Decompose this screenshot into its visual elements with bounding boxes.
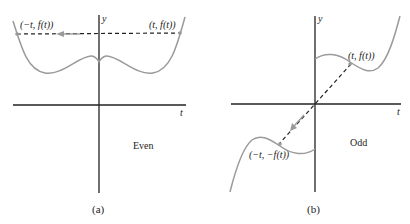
- panel-b-odd: y t (t, f(t)) (−t, −f(t)) Odd (b): [230, 13, 401, 216]
- panel-a-caption: (a): [92, 203, 105, 216]
- panel-b-point-upper: [348, 62, 352, 66]
- panel-a-t-label: t: [180, 107, 183, 118]
- panel-b-t-label: t: [397, 106, 400, 117]
- panel-b-y-label: y: [317, 13, 323, 24]
- panel-b-caption: (b): [307, 203, 320, 216]
- panel-b-point-lower-label: (−t, −f(t)): [249, 149, 290, 161]
- panel-a-y-label: y: [101, 13, 107, 24]
- panel-b-curve-lower: [230, 137, 315, 192]
- panel-b-type-label: Odd: [350, 137, 367, 148]
- panel-a-point-right: [178, 31, 182, 35]
- panel-b-point-lower: [278, 142, 282, 146]
- panel-a-type-label: Even: [133, 140, 154, 151]
- panel-a-point-left: [15, 32, 19, 36]
- figure-canvas: y t (−t, f(t)) (t, f(t)) Even (a) y t (t…: [0, 0, 410, 224]
- panel-b-curve-upper: [315, 16, 400, 71]
- panel-b-point-upper-label: (t, f(t)): [348, 50, 375, 62]
- panel-a-point-right-label: (t, f(t)): [149, 19, 176, 31]
- panel-a-even: y t (−t, f(t)) (t, f(t)) Even (a): [13, 13, 186, 216]
- panel-a-point-left-label: (−t, f(t)): [20, 19, 54, 31]
